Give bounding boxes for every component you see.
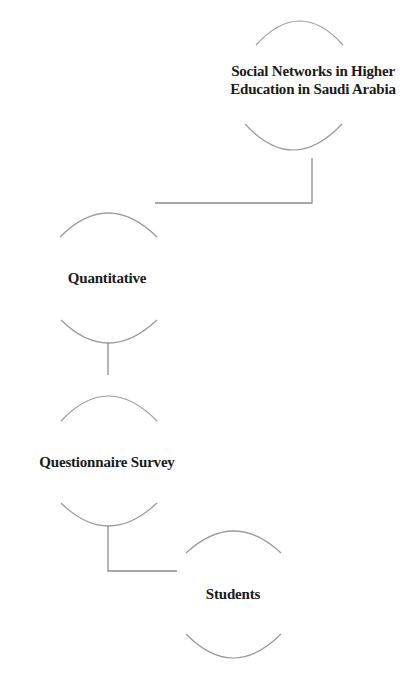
node-root-top-arc <box>256 21 343 45</box>
node-method-label: Questionnaire Survey <box>8 453 206 471</box>
node-participants-bottom-arc <box>186 634 281 658</box>
node-root-label: Social Networks in Higher Education in S… <box>222 62 404 98</box>
node-approach-bottom-arc <box>61 320 157 343</box>
node-participants-label-text: Students <box>183 585 283 603</box>
node-approach-top-arc <box>60 213 157 237</box>
node-method-top-arc <box>61 396 157 421</box>
connector-method-to-participants <box>108 526 177 571</box>
node-participants-top-arc <box>186 531 281 553</box>
connector-root-to-approach <box>155 158 312 203</box>
node-method-bottom-arc <box>61 503 157 526</box>
diagram-graphics <box>0 0 412 683</box>
node-root-label-line-1: Social Networks in Higher <box>222 62 404 80</box>
node-approach-label-text: Quantitative <box>40 269 174 287</box>
node-method-label-text: Questionnaire Survey <box>8 453 206 471</box>
node-root-bottom-arc <box>245 124 342 150</box>
node-approach-label: Quantitative <box>40 269 174 287</box>
flow-diagram: Social Networks in Higher Education in S… <box>0 0 412 683</box>
node-participants-label: Students <box>183 585 283 603</box>
node-root-label-line-2: Education in Saudi Arabia <box>222 80 404 98</box>
